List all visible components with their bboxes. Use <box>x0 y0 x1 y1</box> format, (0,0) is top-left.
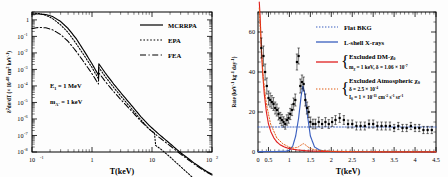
right-x-axis-title: T(keV) <box>336 167 361 176</box>
right-data-point <box>338 114 340 123</box>
svg-text:10: 10 <box>17 115 23 122</box>
left-xtick-2: 10 <box>149 156 155 163</box>
right-data-point <box>385 122 387 130</box>
left-xtick-3-exp: 2 <box>216 155 218 160</box>
svg-text:10: 10 <box>17 66 23 73</box>
svg-text:1: 1 <box>26 16 29 23</box>
right-data-point <box>266 78 268 94</box>
left-legend-label-mcrrpa: MCRRPA <box>168 22 197 29</box>
svg-text:-1: -1 <box>24 32 28 37</box>
right-data-point <box>431 126 433 133</box>
left-y-tick-labels: 10-810-710-610-510-410-310-210-11 <box>17 16 29 155</box>
left-y-axis-title: δ2dσ/dT (× 10-48 cm2 keV-1) <box>5 51 13 113</box>
svg-text:-6: -6 <box>24 114 28 119</box>
right-data-point <box>405 124 407 131</box>
svg-text:mA′ = 1 keV: mA′ = 1 keV <box>50 98 83 107</box>
right-legend-brace-atm: { <box>341 79 349 98</box>
annot-e1-rest: = 1 MeV <box>56 82 81 89</box>
right-data-point <box>281 114 283 125</box>
atm-l1-exp: -4 <box>375 86 378 90</box>
right-legend-sub-atm-line2: I0 = 1 × 10-11 cm-2 s-1 sr-1 <box>349 94 404 101</box>
atm-label-chi-sub: 0 <box>418 80 421 85</box>
svg-text:E1 = 1 MeV: E1 = 1 MeV <box>50 82 82 91</box>
left-xtick-3: 10 <box>206 156 212 163</box>
right-legend-label-lshell: L-shell X-rays <box>344 39 385 46</box>
dm-label-text: Excluded DM- <box>349 53 390 60</box>
right-x-tick-labels: 00.511.522.533.544.5 <box>256 156 439 163</box>
svg-text:Rate (keV-1 kg-1 day-1): Rate (keV-1 kg-1 day-1) <box>230 56 238 107</box>
atm-label-text: Excluded Atmospheric <box>349 77 415 84</box>
right-data-point <box>410 122 412 129</box>
rylab-lead: Rate (keV <box>231 85 238 108</box>
left-x-tick-labels: 10 -1 1 10 10 2 <box>29 155 218 164</box>
right-data-point <box>418 124 420 131</box>
right-data-point <box>343 116 345 125</box>
svg-text:10: 10 <box>17 99 23 106</box>
right-data-point <box>359 122 361 130</box>
right-data-point <box>355 122 357 130</box>
right-data-point <box>334 116 336 125</box>
right-xtick-label: 3 <box>372 156 375 163</box>
right-xtick-label: 1 <box>288 156 291 163</box>
right-ytick-label: 40 <box>249 68 255 75</box>
svg-text:-5: -5 <box>24 98 28 103</box>
right-ytick-label: 60 <box>249 28 255 35</box>
left-x-axis-title: T(keV) <box>110 167 135 176</box>
right-data-point <box>309 117 311 127</box>
right-plot-svg: 00.511.522.533.544.5 0204060 T(keV) Rate… <box>224 0 448 177</box>
right-xtick-label: 2 <box>330 156 333 163</box>
svg-text:10: 10 <box>17 148 23 155</box>
right-xtick-label: 0 <box>256 156 259 163</box>
rylab-close: ) <box>231 56 238 58</box>
right-xtick-label: 0.5 <box>265 156 273 163</box>
right-data-point <box>318 117 320 127</box>
svg-text:-4: -4 <box>24 81 28 86</box>
left-xtick-0: 10 <box>29 156 35 163</box>
right-data-point <box>331 118 333 127</box>
figure-root: 10 -1 1 10 10 2 T(keV) 10-810-710-610-51… <box>0 0 448 177</box>
dm-m-exp: -7 <box>405 64 408 68</box>
right-data-point <box>380 122 382 130</box>
right-legend-label-dm: Excluded DM-χ0 <box>349 53 396 62</box>
atm-l2-tail3-sup: -1 <box>400 94 403 98</box>
right-ytick-label: 20 <box>249 108 255 115</box>
right-legend-brace-dm: { <box>341 52 349 71</box>
left-curve-mcrrpa <box>32 14 212 174</box>
right-data-point <box>401 124 403 131</box>
ylab-main: dσ/dT (× 10 <box>6 82 13 108</box>
right-data-point <box>324 118 326 127</box>
left-legend: MCRRPA EPA FEA <box>140 22 197 59</box>
right-data-point <box>426 126 428 133</box>
right-panel: 00.511.522.533.544.5 0204060 T(keV) Rate… <box>224 0 448 177</box>
right-data-point <box>364 122 366 130</box>
right-legend: Flat BKG L-shell X-rays { Excluded DM-χ0… <box>316 24 421 101</box>
right-xtick-label: 1.5 <box>306 156 314 163</box>
left-annotation-e1: E1 = 1 MeV <box>50 82 82 91</box>
right-xtick-label: 2.5 <box>348 156 356 163</box>
right-data-point <box>422 126 424 133</box>
svg-text:-3: -3 <box>24 65 28 70</box>
right-y-tick-labels: 0204060 <box>249 28 255 155</box>
svg-text:10: 10 <box>17 33 23 40</box>
right-data-point <box>393 124 395 131</box>
right-legend-sub-dm: mχ = 1 keV, δ = 1.06 × 10-7 <box>349 64 408 71</box>
left-xtick-0-exp: -1 <box>40 155 44 160</box>
left-annotation-ma: mA′ = 1 keV <box>50 98 83 107</box>
right-data-point <box>376 122 378 130</box>
svg-text:10: 10 <box>17 82 23 89</box>
ylab-tail2: keV <box>6 56 12 66</box>
right-xtick-label: 4.5 <box>432 156 440 163</box>
right-y-axis-title: Rate (keV-1 kg-1 day-1) <box>230 56 238 107</box>
left-panel: 10 -1 1 10 10 2 T(keV) 10-810-710-610-51… <box>0 0 224 177</box>
dm-label-chi-sub: 0 <box>393 56 396 61</box>
left-legend-label-epa: EPA <box>168 37 181 44</box>
left-legend-label-fea: FEA <box>168 52 181 59</box>
svg-text:-8: -8 <box>24 147 28 152</box>
left-xtick-1: 1 <box>90 156 93 163</box>
atm-l2-mid: = 1 × 10 <box>353 94 373 100</box>
left-plot-svg: 10 -1 1 10 10 2 T(keV) 10-810-710-610-51… <box>0 0 224 177</box>
right-xtick-label: 4 <box>414 156 417 163</box>
right-data-point <box>397 122 399 129</box>
svg-text:-7: -7 <box>24 131 28 136</box>
right-legend-label-atm: Excluded Atmospheric χ0 <box>349 77 421 86</box>
